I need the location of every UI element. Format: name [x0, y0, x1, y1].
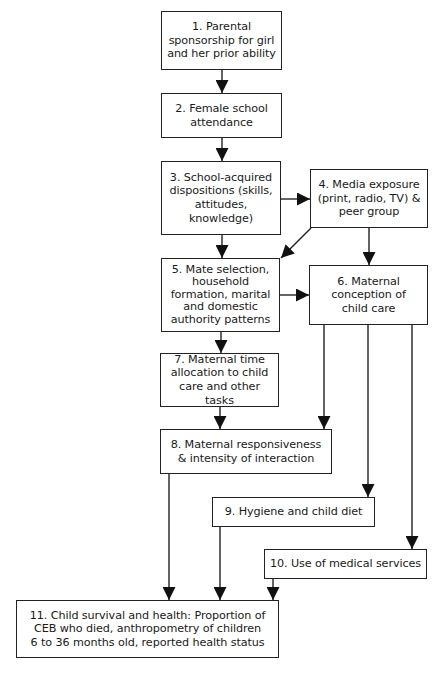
node-6-maternal-conception: 6. Maternal conception of child care — [309, 265, 428, 325]
node-11-child-survival-health: 11. Child survival and health: Proportio… — [16, 600, 279, 658]
node-9-label: 9. Hygiene and child diet — [225, 505, 363, 519]
node-3-label: 3. School-acquired dispositions (skills,… — [169, 171, 272, 225]
node-4-media-exposure: 4. Media exposure (print, radio, TV) & p… — [310, 169, 428, 228]
node-7-label: 7. Maternal time allocation to child car… — [165, 353, 274, 407]
node-1-label: 1. Parental sponsorship for girl and her… — [167, 20, 276, 61]
flowchart-canvas: 1. Parental sponsorship for girl and her… — [0, 0, 447, 681]
node-10-label: 10. Use of medical services — [270, 557, 421, 571]
node-4-label: 4. Media exposure (print, radio, TV) & p… — [318, 178, 421, 219]
node-11-label: 11. Child survival and health: Proportio… — [30, 609, 266, 650]
node-6-label: 6. Maternal conception of child care — [331, 275, 406, 316]
node-2-female-school-attendance: 2. Female school attendance — [161, 93, 282, 138]
node-7-maternal-time-allocation: 7. Maternal time allocation to child car… — [160, 353, 279, 407]
node-9-hygiene-child-diet: 9. Hygiene and child diet — [212, 497, 375, 527]
edge-4-to-5 — [281, 228, 311, 258]
node-3-school-acquired-dispositions: 3. School-acquired dispositions (skills,… — [161, 161, 281, 235]
node-8-label: 8. Maternal responsiveness & intensity o… — [171, 438, 322, 465]
node-5-mate-selection: 5. Mate selection, household formation, … — [161, 258, 280, 332]
node-2-label: 2. Female school attendance — [175, 102, 268, 129]
node-10-medical-services: 10. Use of medical services — [264, 549, 427, 579]
node-1-parental-sponsorship: 1. Parental sponsorship for girl and her… — [161, 11, 282, 70]
node-8-maternal-responsiveness: 8. Maternal responsiveness & intensity o… — [160, 429, 332, 474]
node-5-label: 5. Mate selection, household formation, … — [171, 264, 271, 326]
